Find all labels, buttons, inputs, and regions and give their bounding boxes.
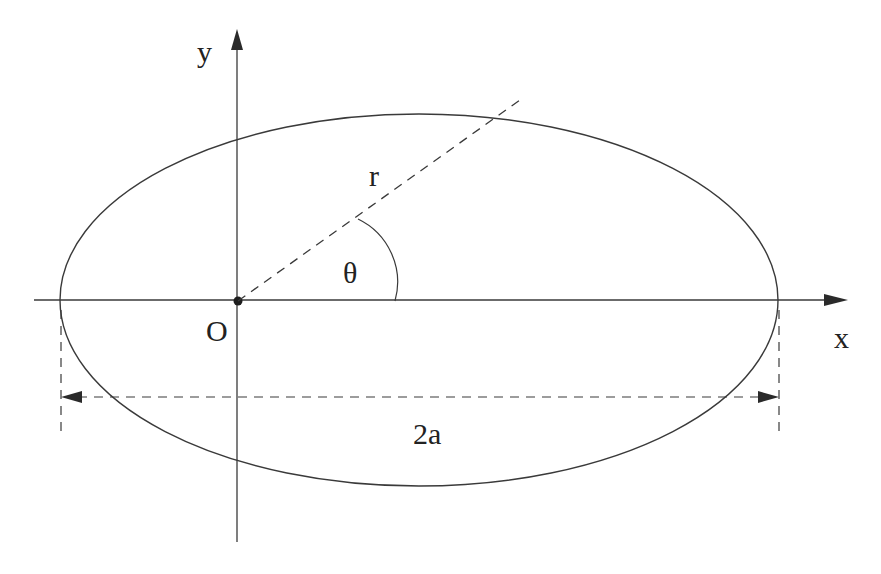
y-axis-arrow-icon xyxy=(231,29,243,50)
major-axis-dimension xyxy=(61,391,779,403)
origin-label: O xyxy=(206,314,228,347)
dimension-arrow-left-icon xyxy=(61,391,82,403)
radius-label: r xyxy=(369,159,379,192)
major-axis-label: 2a xyxy=(413,417,441,450)
angle-label: θ xyxy=(343,256,357,289)
x-axis-arrow-icon xyxy=(824,294,848,306)
radius-line xyxy=(238,100,520,301)
x-axis-label: x xyxy=(834,321,849,354)
y-axis-label: y xyxy=(197,35,212,68)
angle-arc xyxy=(358,219,398,301)
y-axis xyxy=(231,29,243,542)
x-axis xyxy=(34,294,848,306)
ellipse-diagram: y x O r θ 2a xyxy=(0,0,881,574)
dimension-arrow-right-icon xyxy=(758,391,779,403)
